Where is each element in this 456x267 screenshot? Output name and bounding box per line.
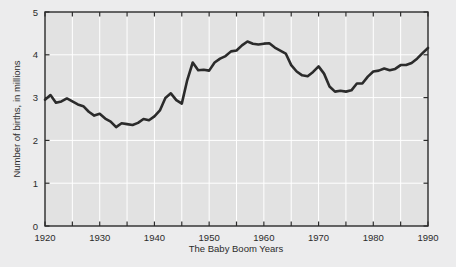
x-tick-label-1970: 1970 (308, 232, 329, 243)
y-tick-label-2: 2 (33, 135, 38, 146)
x-tick-label-1940: 1940 (144, 232, 165, 243)
x-axis-title: The Baby Boom Years (189, 243, 284, 254)
y-tick-label-0: 0 (33, 221, 38, 232)
x-tick-label-1990: 1990 (417, 232, 438, 243)
x-tick-label-1920: 1920 (34, 232, 55, 243)
y-tick-label-1: 1 (33, 178, 38, 189)
chart-figure: 19201930194019501960197019801990 012345 … (0, 0, 456, 267)
births-line-chart: 19201930194019501960197019801990 012345 … (0, 0, 456, 267)
x-tick-label-1930: 1930 (89, 232, 110, 243)
x-tick-label-1980: 1980 (363, 232, 384, 243)
y-tick-label-5: 5 (33, 7, 38, 18)
y-axis-title: Number of births, in millions (11, 60, 22, 177)
y-tick-label-4: 4 (33, 49, 38, 60)
y-tick-label-3: 3 (33, 92, 38, 103)
x-tick-label-1960: 1960 (253, 232, 274, 243)
x-tick-label-1950: 1950 (199, 232, 220, 243)
